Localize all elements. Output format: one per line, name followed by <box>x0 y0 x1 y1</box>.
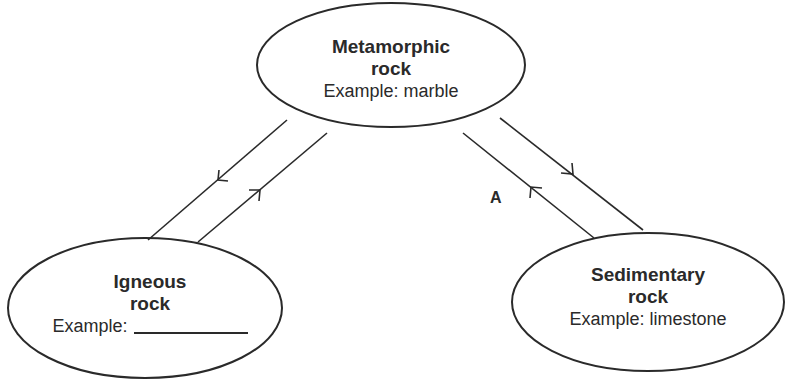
igneous-node: Igneous rock Example: <box>30 271 270 337</box>
igneous-example: Example: <box>30 316 270 337</box>
process-label-a: A <box>490 189 502 207</box>
igneous-example-prefix: Example: <box>52 316 127 336</box>
igneous-title-line1: Igneous <box>30 271 270 293</box>
metamorphic-title-line2: rock <box>291 58 491 80</box>
igneous-title-line2: rock <box>30 293 270 315</box>
igneous-to-metamorphic-line <box>198 133 327 242</box>
sedimentary-node: Sedimentary rock Example: limestone <box>538 264 758 330</box>
arrow-down-right-icon <box>561 163 573 174</box>
sedimentary-example: Example: limestone <box>538 309 758 330</box>
sedimentary-title-line1: Sedimentary <box>538 264 758 286</box>
sedimentary-to-metamorphic-line <box>463 133 594 238</box>
metamorphic-node: Metamorphic rock Example: marble <box>291 36 491 102</box>
metamorphic-title-line1: Metamorphic <box>291 36 491 58</box>
sedimentary-title-line2: rock <box>538 286 758 308</box>
igneous-example-blank[interactable] <box>134 332 248 334</box>
metamorphic-example: Example: marble <box>291 81 491 102</box>
